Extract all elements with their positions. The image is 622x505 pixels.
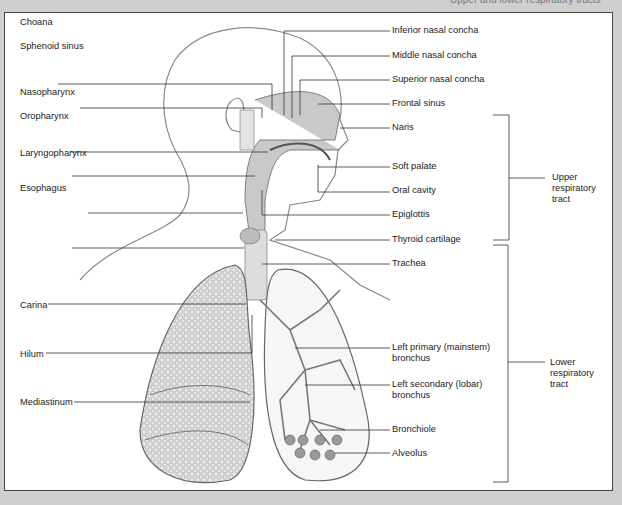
label-left-primary-mainstem-bronchus: Left primary (mainstem)bronchus	[392, 342, 490, 364]
label-mediastinum: Mediastinum	[20, 397, 73, 408]
label-laryngopharynx: Laryngopharynx	[20, 148, 87, 159]
label-nasopharynx: Nasopharynx	[20, 87, 75, 98]
label-frontal-sinus: Frontal sinus	[392, 98, 445, 109]
label-trachea: Trachea	[392, 258, 426, 269]
label-hilum: Hilum	[20, 349, 44, 360]
anatomy-illustration	[0, 0, 622, 505]
label-oropharynx: Oropharynx	[20, 111, 69, 122]
group-label-upper-respiratory-tract: Upperrespiratorytract	[552, 172, 596, 205]
label-choana: Choana	[20, 17, 53, 28]
label-bronchiole: Bronchiole	[392, 424, 436, 435]
head-outline	[80, 28, 390, 300]
left-lung	[264, 269, 369, 481]
label-alveolus: Alveolus	[392, 448, 427, 459]
label-carina: Carina	[20, 300, 47, 311]
label-oral-cavity: Oral cavity	[392, 185, 436, 196]
right-lung	[140, 265, 254, 483]
label-esophagus: Esophagus	[20, 183, 67, 194]
label-superior-nasal-concha: Superior nasal concha	[392, 74, 485, 85]
label-sphenoid-sinus: Sphenoid sinus	[20, 41, 84, 52]
label-naris: Naris	[392, 122, 414, 133]
label-soft-palate: Soft palate	[392, 161, 436, 172]
label-thyroid-cartilage: Thyroid cartilage	[392, 234, 461, 245]
label-inferior-nasal-concha: Inferior nasal concha	[392, 25, 478, 36]
label-left-secondary-lobar-bronchus: Left secondary (lobar)bronchus	[392, 379, 482, 401]
group-label-lower-respiratory-tract: Lowerrespiratorytract	[550, 357, 594, 390]
label-middle-nasal-concha: Middle nasal concha	[392, 50, 477, 61]
label-epiglottis: Epiglottis	[392, 209, 430, 220]
